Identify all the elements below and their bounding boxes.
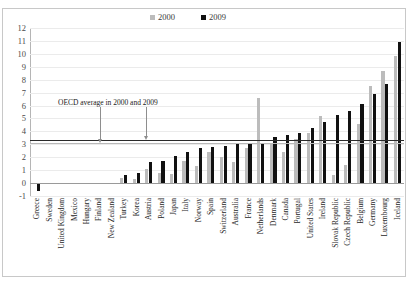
oecd-average-line-2000 (30, 143, 404, 144)
x-axis-label-cell: Ireland (317, 198, 329, 278)
legend-item-2009: 2009 (201, 12, 226, 22)
bars-layer (31, 28, 404, 196)
bar-2009 (373, 94, 376, 183)
bar-2000 (381, 71, 384, 183)
bar-group (143, 28, 155, 196)
bar-2000 (344, 165, 347, 183)
bar-2000 (232, 162, 235, 183)
bar-2000 (282, 152, 285, 183)
bar-group (280, 28, 292, 196)
bar-group (230, 28, 242, 196)
x-axis-label: Turkey (121, 198, 129, 219)
x-axis-label-cell: Spain (205, 198, 217, 278)
x-axis-label-cell: France (242, 198, 254, 278)
bar-group (193, 28, 205, 196)
x-axis-label-cell: Italy (180, 198, 192, 278)
bar-group (342, 28, 354, 196)
bar-2000 (145, 169, 148, 183)
bar-group (56, 28, 68, 196)
x-axis-label-cell: Czech Republic (342, 198, 354, 278)
y-axis-tick-label: 0 (22, 178, 26, 188)
bar-group (218, 28, 230, 196)
y-axis-tick-label: 8 (22, 75, 26, 85)
bar-2009 (161, 161, 164, 183)
legend-label-2000: 2000 (158, 12, 175, 22)
x-axis-label: Korea (133, 198, 141, 216)
x-axis-label: Poland (158, 198, 166, 219)
x-axis-label: Belgium (357, 198, 365, 224)
bar-2009 (385, 84, 388, 184)
bar-2009 (124, 175, 127, 183)
bar-group (180, 28, 192, 196)
x-axis-label: Luxembourg (382, 198, 390, 237)
bar-group (330, 28, 342, 196)
x-axis-label-cell: Finland (93, 198, 105, 278)
x-axis-label-cell: Greece (31, 198, 43, 278)
x-axis-label: Italy (183, 198, 191, 212)
legend-item-2000: 2000 (150, 12, 175, 22)
x-axis-label-cell: Iceland (392, 198, 404, 278)
bar-group (68, 28, 80, 196)
x-axis-label-cell: New Zealand (106, 198, 118, 278)
bar-group (31, 28, 43, 196)
bar-group (354, 28, 366, 196)
bar-2009 (348, 111, 351, 183)
bar-2000 (332, 175, 335, 183)
bar-2000 (319, 116, 322, 183)
x-axis-label-cell: Denmark (267, 198, 279, 278)
x-axis-label: Spain (208, 198, 216, 215)
bar-2009 (199, 148, 202, 183)
bar-group (267, 28, 279, 196)
bar-group (392, 28, 404, 196)
bar-2000 (182, 161, 185, 183)
bar-2000 (369, 86, 372, 183)
bar-group (205, 28, 217, 196)
x-axis-label-cell: Germany (367, 198, 379, 278)
chart-container: 2000 2009 1211109876543210-1 OECD averag… (0, 0, 410, 281)
y-axis-tick-label: 10 (18, 49, 27, 59)
bar-2000 (294, 139, 297, 183)
x-axis-label-cell: United Kingdom (56, 198, 68, 278)
x-axis-label: Canada (282, 198, 290, 221)
legend-swatch-2009 (201, 15, 206, 20)
chart-legend: 2000 2009 (150, 12, 226, 22)
x-axis-label: Netherlands (257, 198, 265, 234)
x-axis-label-cell: Austria (143, 198, 155, 278)
x-axis-label: Japan (170, 198, 178, 215)
bar-group (118, 28, 130, 196)
bar-group (317, 28, 329, 196)
x-axis-label: Austria (145, 198, 153, 220)
x-axis-label: Germany (369, 198, 377, 226)
x-axis-label-cell: Norway (193, 198, 205, 278)
bar-2009 (224, 146, 227, 183)
bar-2009 (149, 162, 152, 183)
x-axis-label: Czech Republic (344, 198, 352, 246)
x-axis-label-cell: Luxembourg (379, 198, 391, 278)
legend-swatch-2000 (150, 15, 155, 20)
x-axis-label: Portugal (295, 198, 303, 223)
bar-2009 (261, 143, 264, 183)
y-axis-tick-label: 4 (22, 126, 26, 136)
bar-2000 (195, 166, 198, 183)
bar-2000 (357, 124, 360, 183)
x-axis-label: Sweden (46, 198, 54, 222)
bar-2009 (398, 42, 401, 183)
bar-2000 (207, 152, 210, 183)
y-axis-tick-label: -1 (19, 191, 26, 201)
bar-group (242, 28, 254, 196)
bar-group (43, 28, 55, 196)
x-axis-label-cell: Portugal (292, 198, 304, 278)
bar-group (255, 28, 267, 196)
y-axis-tick-label: 3 (22, 139, 26, 149)
bar-2000 (220, 157, 223, 183)
x-axis-label: Switzerland (220, 198, 228, 234)
x-axis-label: Denmark (270, 198, 278, 226)
x-axis-label-cell: Poland (155, 198, 167, 278)
bar-2009 (311, 128, 314, 184)
x-axis-label: Finland (96, 198, 104, 221)
x-axis-label-cell: Canada (280, 198, 292, 278)
bar-2009 (323, 122, 326, 183)
bar-2009 (137, 173, 140, 183)
x-axis-label: New Zealand (108, 198, 116, 238)
x-axis-label-cell: Australia (230, 198, 242, 278)
